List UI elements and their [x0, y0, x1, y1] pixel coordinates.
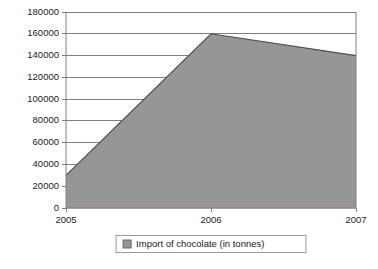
y-axis-tick-label: 20000	[33, 180, 59, 191]
area-chart: 0200004000060000800001000001200001400001…	[0, 0, 378, 269]
y-axis-tick-label: 180000	[27, 6, 59, 17]
y-axis-tick-label: 160000	[27, 27, 59, 38]
y-axis-tick-label: 80000	[33, 114, 59, 125]
y-axis-tick-label: 100000	[27, 93, 59, 104]
y-axis-tick-label: 60000	[33, 136, 59, 147]
y-axis-tick-label: 120000	[27, 71, 59, 82]
x-axis-tick-label: 2005	[55, 214, 76, 225]
x-axis-tick-label: 2006	[200, 214, 221, 225]
chart-legend: Import of chocolate (in tonnes)	[116, 236, 306, 253]
y-axis-tick-label: 140000	[27, 49, 59, 60]
chart-container: 0200004000060000800001000001200001400001…	[0, 0, 378, 269]
legend-swatch	[123, 240, 131, 248]
x-axis-tick-label: 2007	[345, 214, 366, 225]
y-axis-tick-label: 40000	[33, 158, 59, 169]
legend-label: Import of chocolate (in tonnes)	[136, 238, 264, 249]
y-axis-tick-label: 0	[54, 202, 59, 213]
